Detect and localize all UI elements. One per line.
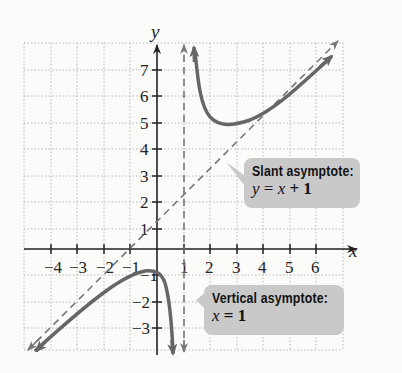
svg-text:7: 7 — [140, 61, 149, 80]
svg-text:2: 2 — [205, 258, 214, 277]
svg-text:6: 6 — [140, 87, 149, 106]
y-tick-labels: 7 6 5 4 3 2 1 −1 −2 −3 — [132, 61, 158, 338]
svg-text:4: 4 — [140, 140, 149, 159]
svg-text:5: 5 — [285, 258, 294, 277]
svg-text:−3: −3 — [69, 258, 87, 277]
svg-text:−3: −3 — [132, 319, 150, 338]
curve-right-branch — [195, 52, 328, 125]
svg-text:4: 4 — [258, 258, 267, 277]
svg-text:−2: −2 — [132, 293, 150, 312]
svg-text:5: 5 — [140, 114, 149, 133]
svg-text:2: 2 — [140, 193, 149, 212]
svg-text:6: 6 — [311, 258, 320, 277]
slant-asymptote-title: Slant asymptote: — [252, 162, 334, 179]
svg-text:−1: −1 — [140, 266, 158, 285]
slant-asymptote-equation: y = x + 1 — [252, 179, 352, 199]
y-axis-label: y — [149, 21, 160, 42]
slant-asymptote-callout: Slant asymptote: y = x + 1 — [244, 158, 360, 208]
vertical-asymptote-callout: Vertical asymptote: x = 1 — [204, 285, 344, 335]
x-tick-labels: −4 −3 −2 −1 1 2 3 4 5 6 — [44, 258, 320, 277]
x-axis-label: x — [348, 240, 358, 261]
svg-text:3: 3 — [232, 258, 241, 277]
vertical-asymptote-equation: x = 1 — [212, 306, 336, 326]
vertical-asymptote-title: Vertical asymptote: — [212, 289, 314, 306]
svg-text:−4: −4 — [44, 258, 63, 277]
svg-text:3: 3 — [140, 167, 149, 186]
